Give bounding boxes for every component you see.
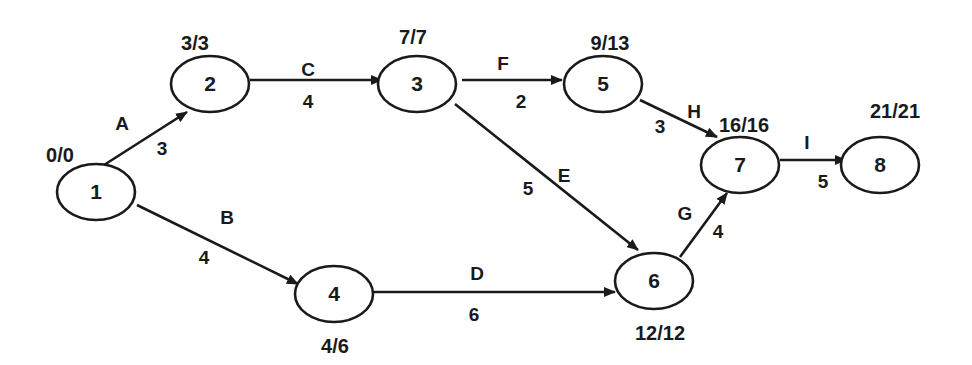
node-times-label: 4/6 (321, 335, 349, 357)
node-number: 3 (411, 72, 423, 95)
edge-E: E5 (455, 104, 638, 250)
node-times-label: 9/13 (591, 32, 630, 54)
duration-label: 5 (523, 178, 534, 199)
node-times-label: 3/3 (181, 32, 209, 54)
activity-label: E (558, 165, 571, 186)
edge-A: A3 (104, 112, 187, 165)
nodes-layer: 10/023/337/744/659/13612/12716/16821/21 (46, 26, 920, 357)
activity-label: F (497, 53, 509, 74)
edge-F: F2 (462, 53, 562, 112)
edge-G: G4 (678, 193, 727, 257)
activity-label: B (220, 207, 234, 228)
activity-label: C (301, 59, 315, 80)
duration-label: 5 (818, 171, 829, 192)
edge-arrow (137, 205, 298, 284)
node-8: 821/21 (841, 100, 920, 193)
duration-label: 4 (713, 221, 724, 242)
node-number: 5 (597, 72, 609, 95)
edge-C: C4 (250, 59, 382, 112)
node-2: 23/3 (171, 32, 249, 112)
edge-H: H3 (640, 100, 717, 137)
activity-label: D (470, 263, 484, 284)
node-times-label: 7/7 (399, 26, 427, 48)
duration-label: 3 (157, 138, 168, 159)
activity-label: H (687, 101, 701, 122)
node-times-label: 16/16 (719, 114, 769, 136)
node-5: 59/13 (564, 32, 642, 112)
node-6: 612/12 (615, 253, 693, 344)
duration-label: 6 (469, 304, 480, 325)
edge-D: D6 (373, 263, 615, 325)
activity-label: I (804, 132, 809, 153)
node-7: 716/16 (701, 114, 779, 193)
node-times-label: 0/0 (46, 144, 74, 166)
edge-I: I5 (780, 132, 846, 192)
network-diagram: A3B4C4D6E5F2G4H3I5 10/023/337/744/659/13… (0, 0, 972, 365)
activity-label: A (115, 113, 129, 134)
activity-label: G (678, 203, 693, 224)
node-number: 7 (734, 153, 746, 176)
node-number: 8 (874, 153, 886, 176)
node-times-label: 12/12 (635, 322, 685, 344)
node-number: 1 (90, 180, 102, 203)
edge-arrow (455, 104, 638, 250)
edge-B: B4 (137, 205, 298, 284)
node-1: 10/0 (46, 144, 135, 220)
node-number: 4 (328, 282, 340, 305)
node-3: 37/7 (378, 26, 456, 112)
node-number: 6 (648, 269, 660, 292)
node-times-label: 21/21 (870, 100, 920, 122)
node-number: 2 (204, 72, 216, 95)
duration-label: 3 (655, 116, 666, 137)
duration-label: 4 (199, 247, 210, 268)
node-4: 44/6 (295, 266, 373, 357)
duration-label: 2 (516, 91, 527, 112)
edge-arrow (640, 100, 717, 137)
duration-label: 4 (303, 91, 314, 112)
